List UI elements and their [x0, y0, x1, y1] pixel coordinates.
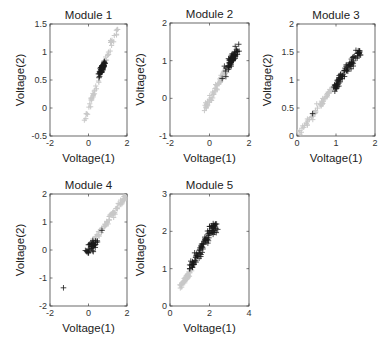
- x-axis-label: Voltage(1): [62, 152, 115, 164]
- x-axis-label: Voltage(1): [183, 152, 236, 164]
- x-tick-label: 2: [246, 138, 251, 148]
- y-axis-label: Voltage(2): [14, 224, 26, 277]
- y-axis-label: Voltage(2): [134, 53, 146, 106]
- y-tick-label: -1: [159, 131, 167, 141]
- subplot-1: Module 1-202-0.500.511.5Voltage(1)Voltag…: [14, 9, 130, 164]
- x-axis-label: Voltage(1): [183, 322, 236, 334]
- y-tick-label: 2: [42, 189, 47, 199]
- y-tick-label: 0: [162, 301, 167, 311]
- y-tick-label: 0: [42, 103, 47, 113]
- y-tick-label: 3: [162, 189, 167, 199]
- axes-frame: [50, 24, 127, 136]
- y-tick-label: 0.5: [281, 103, 294, 113]
- y-tick-label: -2: [39, 301, 47, 311]
- y-tick-label: -1: [39, 273, 47, 283]
- y-tick-label: 1: [162, 56, 167, 66]
- x-tick-label: 0: [86, 308, 91, 318]
- x-axis-label: Voltage(1): [62, 322, 115, 334]
- subplot-3: Module 301200.511.52Voltage(1)Voltage(2): [261, 9, 378, 164]
- subplot-title: Module 4: [65, 179, 113, 191]
- y-tick-label: 1: [42, 217, 47, 227]
- y-tick-label: 0: [162, 93, 167, 103]
- y-tick-label: 0: [289, 131, 294, 141]
- y-axis-label: Voltage(2): [14, 54, 26, 107]
- y-tick-label: 1: [162, 264, 167, 274]
- x-tick-label: 0: [294, 138, 299, 148]
- y-tick-label: 0.5: [34, 75, 47, 85]
- y-tick-label: 1.5: [34, 19, 47, 29]
- x-tick-label: 2: [124, 138, 129, 148]
- y-tick-label: 2: [162, 18, 167, 28]
- y-tick-label: 2: [289, 19, 294, 29]
- subplot-4: Module 4-202-2-1012Voltage(1)Voltage(2): [14, 179, 130, 334]
- y-tick-label: 1.5: [281, 47, 294, 57]
- x-tick-label: 4: [246, 308, 251, 318]
- subplot-title: Module 1: [65, 9, 112, 21]
- x-axis-label: Voltage(1): [310, 152, 363, 164]
- subplot-title: Module 2: [186, 8, 233, 20]
- y-tick-label: 1: [42, 47, 47, 57]
- subplot-title: Module 5: [186, 179, 233, 191]
- x-tick-label: -2: [46, 138, 54, 148]
- subplot-title: Module 3: [312, 9, 359, 21]
- subplot-2: Module 2-202-1012Voltage(1)Voltage(2): [134, 8, 252, 164]
- x-tick-label: 0: [167, 308, 172, 318]
- x-tick-label: 2: [207, 308, 212, 318]
- axes-frame: [170, 23, 249, 136]
- y-tick-label: -0.5: [31, 131, 47, 141]
- x-tick-label: 0: [207, 138, 212, 148]
- y-tick-label: 0: [42, 245, 47, 255]
- x-tick-label: 2: [372, 138, 377, 148]
- x-tick-label: 2: [124, 308, 129, 318]
- y-tick-label: 1: [289, 75, 294, 85]
- y-axis-label: Voltage(2): [261, 54, 273, 107]
- y-tick-label: 2: [162, 226, 167, 236]
- x-tick-label: -2: [46, 308, 54, 318]
- y-axis-label: Voltage(2): [134, 224, 146, 277]
- x-tick-label: 1: [333, 138, 338, 148]
- figure-canvas: Module 1-202-0.500.511.5Voltage(1)Voltag…: [0, 0, 389, 350]
- x-tick-label: -2: [166, 138, 174, 148]
- x-tick-label: 0: [86, 138, 91, 148]
- subplot-5: Module 50240123Voltage(1)Voltage(2): [134, 179, 252, 334]
